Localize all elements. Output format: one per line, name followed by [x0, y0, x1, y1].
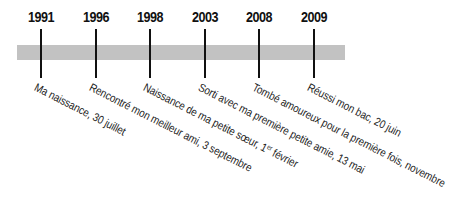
event-tick — [95, 29, 97, 78]
event-tick — [40, 29, 42, 78]
event-label: Ma naissance, 30 juillet — [33, 81, 128, 137]
event-label: Réussi mon bac, 20 juin — [306, 81, 404, 139]
event-year: 2003 — [187, 9, 223, 25]
event-year: 1991 — [23, 9, 59, 25]
event-year: 1998 — [132, 9, 168, 25]
event-label: Tombé amoureux pour la première fois, no… — [251, 81, 448, 189]
event-tick — [204, 29, 206, 78]
event-tick — [258, 29, 260, 78]
timeline-bar — [17, 45, 345, 60]
timeline: 1991 Ma naissance, 30 juillet 1996 Renco… — [0, 0, 465, 215]
event-tick — [313, 29, 315, 78]
event-year: 2009 — [296, 9, 332, 25]
event-year: 1996 — [78, 9, 114, 25]
event-tick — [149, 29, 151, 78]
event-label-text-end: février — [268, 146, 300, 170]
event-year: 2008 — [241, 9, 277, 25]
